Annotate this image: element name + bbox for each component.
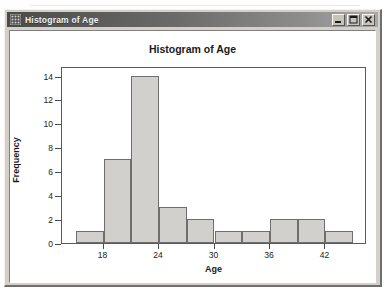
window-title: Histogram of Age	[25, 15, 332, 25]
x-axis-tick	[158, 244, 159, 249]
y-axis-tick-label: 12	[19, 95, 53, 105]
window-titlebar[interactable]: Histogram of Age	[7, 12, 378, 27]
y-axis-tick	[55, 244, 61, 245]
y-axis-tick-label: 6	[19, 167, 53, 177]
y-axis-tick-label: 10	[19, 119, 53, 129]
histogram-bar	[215, 231, 243, 243]
y-axis-tick-label: 4	[19, 191, 53, 201]
x-axis-tick	[103, 244, 104, 249]
histogram-bar	[187, 219, 215, 243]
histogram-bar	[298, 219, 326, 243]
window-client-area: Histogram of Age Frequency 02468101214 1…	[9, 30, 376, 283]
y-axis-tick-label: 0	[19, 239, 53, 249]
y-axis-tick-label: 8	[19, 143, 53, 153]
page-top-margin	[0, 0, 386, 8]
chart-title: Histogram of Age	[10, 43, 375, 55]
histogram-window: Histogram of Age	[4, 9, 382, 287]
y-axis-tick-label: 2	[19, 215, 53, 225]
x-axis-tick-label: 24	[143, 250, 173, 260]
minimize-button[interactable]	[332, 14, 345, 26]
histogram-bar	[242, 231, 270, 243]
x-axis-tick-label: 18	[88, 250, 118, 260]
y-axis-tick-label: 14	[19, 72, 53, 82]
histogram-bar	[131, 76, 159, 243]
x-axis-tick-label: 36	[254, 250, 284, 260]
x-axis-tick-label: 30	[199, 250, 229, 260]
close-button[interactable]	[362, 14, 375, 26]
x-axis-tick	[324, 244, 325, 249]
histogram-bar	[76, 231, 104, 243]
screenshot-root: Histogram of Age	[0, 0, 386, 292]
window-controls	[332, 14, 375, 26]
histogram-bar	[270, 219, 298, 243]
grid-window-icon	[10, 14, 21, 25]
histogram-chart: Histogram of Age Frequency 02468101214 1…	[10, 31, 375, 282]
plot-area	[61, 67, 366, 244]
maximize-button[interactable]	[347, 14, 360, 26]
x-axis-title: Age	[61, 264, 366, 274]
x-axis-tick-label: 42	[309, 250, 339, 260]
x-axis-tick	[269, 244, 270, 249]
bar-series	[62, 68, 365, 243]
histogram-bar	[325, 231, 353, 243]
histogram-bar	[159, 207, 187, 243]
histogram-bar	[104, 159, 132, 243]
x-axis-tick	[214, 244, 215, 249]
